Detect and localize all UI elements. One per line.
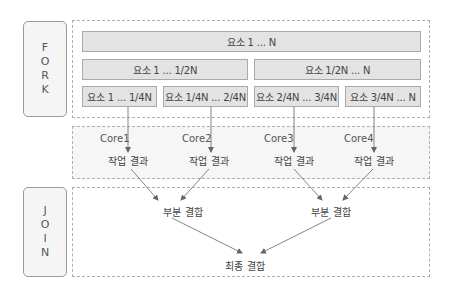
- work-result: 작업 결과: [98, 153, 158, 168]
- core-label: Core2: [182, 133, 212, 144]
- core-label: Core3: [264, 133, 294, 144]
- core-label: Core1: [100, 133, 130, 144]
- final-combine: 최종 결합: [215, 258, 275, 273]
- partial-combine: 부분 결합: [301, 204, 361, 219]
- partial-combine: 부분 결합: [153, 204, 213, 219]
- core-label: Core4: [344, 133, 374, 144]
- work-result: 작업 결과: [264, 153, 324, 168]
- work-result: 작업 결과: [179, 153, 239, 168]
- work-result: 작업 결과: [344, 153, 404, 168]
- connector-lines: [0, 0, 450, 293]
